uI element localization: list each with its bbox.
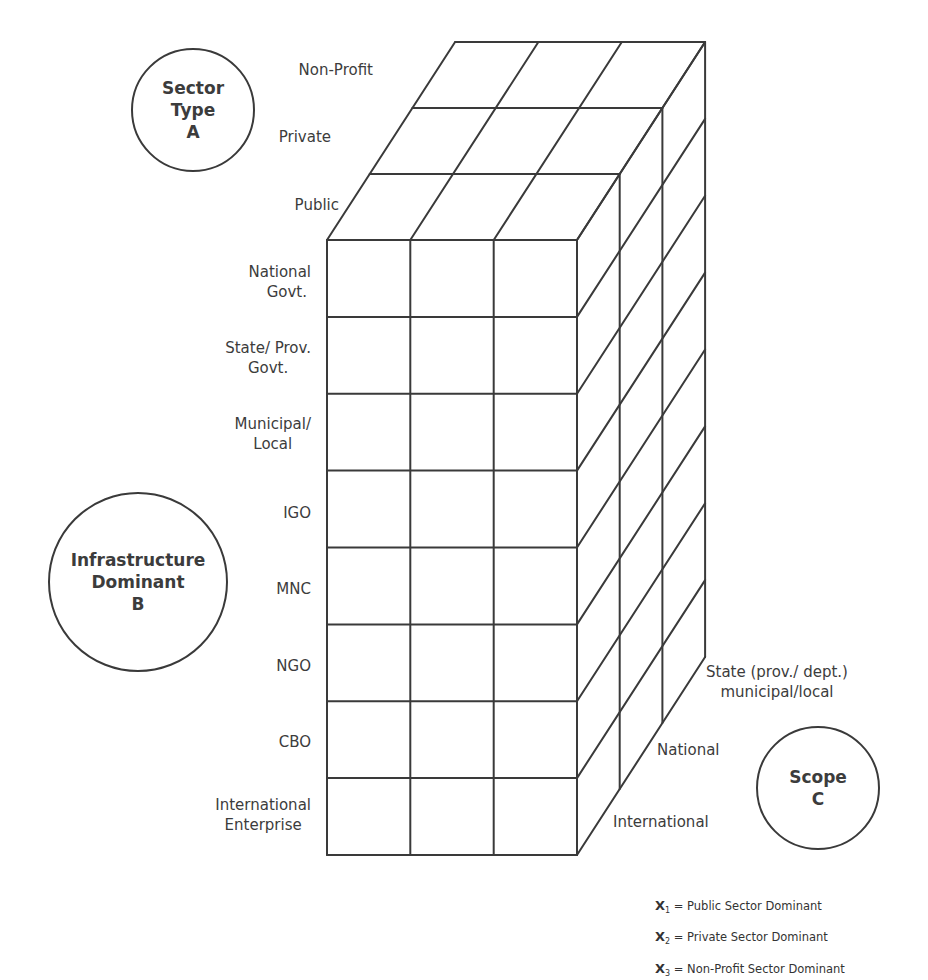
circle-title-line: Scope: [789, 766, 847, 788]
legend-symbol: X: [655, 961, 665, 976]
sector-label-private: Private: [279, 127, 331, 147]
legend-symbol: X: [655, 929, 665, 944]
legend-item-x2: X2 = Private Sector Dominant: [655, 924, 845, 955]
label-line: Municipal/: [235, 414, 311, 434]
label-line: Local: [235, 434, 311, 454]
label-line: municipal/local: [706, 682, 848, 702]
scope-c-circle: Scope C: [756, 726, 880, 850]
legend-symbol: X: [655, 898, 665, 913]
label-line: Govt.: [225, 358, 311, 378]
legend-item-x3: X3 = Non-Profit Sector Dominant: [655, 956, 845, 980]
legend-subscript: 2: [665, 938, 670, 947]
legend-subscript: 1: [665, 906, 670, 915]
circle-title-line: A: [186, 121, 199, 143]
infra-label-international-enterprise: International Enterprise: [215, 795, 311, 835]
circle-title-line: C: [812, 788, 824, 810]
infra-label-national-govt: National Govt.: [248, 262, 311, 302]
infra-label-ngo: NGO: [276, 656, 311, 676]
infra-label-mnc: MNC: [276, 579, 311, 599]
sector-type-a-circle: Sector Type A: [131, 48, 255, 172]
sector-label-public: Public: [295, 195, 339, 215]
legend-text: = Public Sector Dominant: [674, 899, 822, 913]
label-line: National: [248, 262, 311, 282]
legend-text: = Non-Profit Sector Dominant: [674, 962, 845, 976]
circle-title-line: Dominant: [91, 571, 184, 593]
label-line: State (prov./ dept.): [706, 662, 848, 682]
infra-label-municipal-local: Municipal/ Local: [235, 414, 311, 454]
label-line: Govt.: [248, 282, 311, 302]
legend-item-x1: X1 = Public Sector Dominant: [655, 893, 845, 924]
label-line: Enterprise: [215, 815, 311, 835]
circle-title-line: Type: [171, 99, 215, 121]
scope-label-state-municipal: State (prov./ dept.) municipal/local: [706, 662, 848, 702]
label-line: International: [215, 795, 311, 815]
scope-label-national: National: [657, 740, 720, 760]
circle-title-line: Sector: [162, 77, 224, 99]
legend-text: = Private Sector Dominant: [674, 930, 828, 944]
legend: X1 = Public Sector Dominant X2 = Private…: [655, 893, 845, 980]
cube-grid-lines: [327, 42, 705, 855]
infrastructure-dominant-b-circle: Infrastructure Dominant B: [48, 492, 228, 672]
circle-title-line: B: [132, 593, 145, 615]
infra-label-state-prov-govt: State/ Prov. Govt.: [225, 338, 311, 378]
circle-title-line: Infrastructure: [71, 549, 206, 571]
sector-label-non-profit: Non-Profit: [299, 60, 373, 80]
label-line: State/ Prov.: [225, 338, 311, 358]
infra-label-igo: IGO: [283, 503, 311, 523]
scope-label-international: International: [613, 812, 709, 832]
infra-label-cbo: CBO: [279, 732, 311, 752]
legend-subscript: 3: [665, 969, 670, 978]
